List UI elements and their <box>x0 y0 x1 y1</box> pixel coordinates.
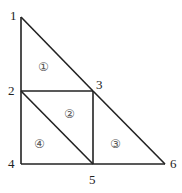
region-label-2: ② <box>64 107 75 121</box>
edge-2-5 <box>21 91 93 164</box>
node-label-6: 6 <box>170 156 177 171</box>
node-label-4: 4 <box>8 156 15 171</box>
region-label-3: ③ <box>110 137 121 151</box>
node-label-1: 1 <box>10 8 17 23</box>
node-label-2: 2 <box>8 83 15 98</box>
region-label-4: ④ <box>34 137 45 151</box>
node-label-5: 5 <box>89 172 96 187</box>
edge-3-6 <box>93 91 165 164</box>
region-label-1: ① <box>38 60 49 74</box>
triangle-mesh-diagram: 1 2 3 4 5 6 ① ② ③ ④ <box>0 0 182 193</box>
edge-1-3 <box>21 17 93 91</box>
node-label-3: 3 <box>96 77 103 92</box>
